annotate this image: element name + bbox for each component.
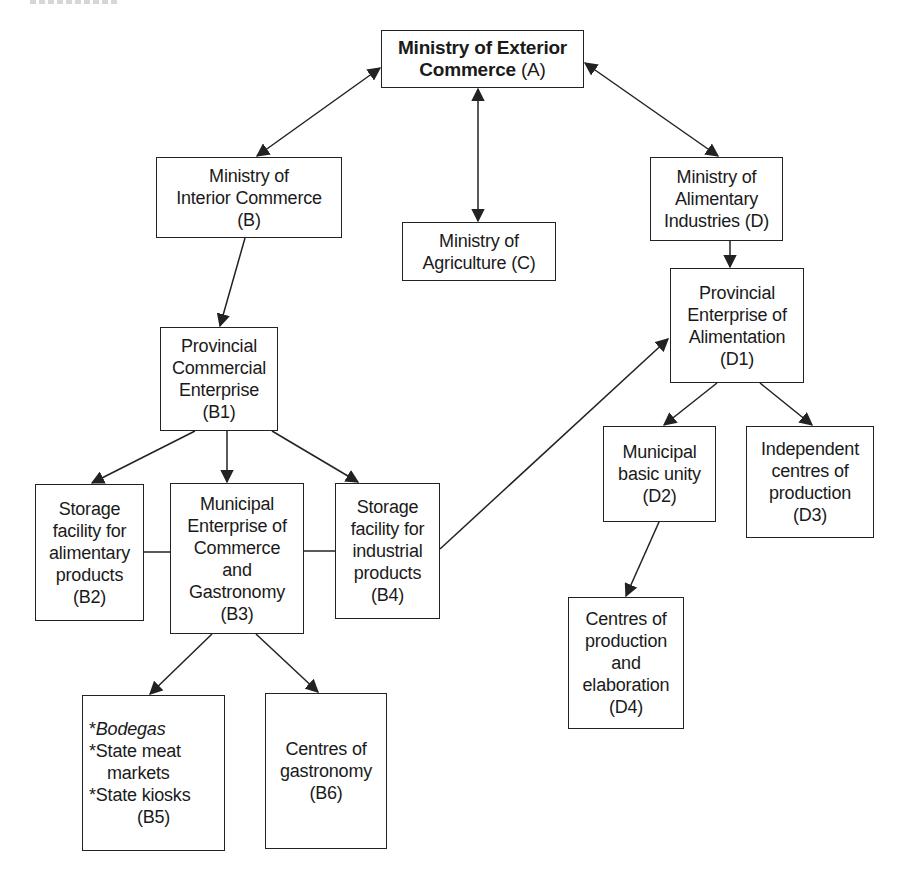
node-centres-production-elaboration: Centres of production and elaboration (D… <box>568 597 684 729</box>
edge-B1-B2 <box>92 431 195 483</box>
edge-B-B1 <box>220 238 245 326</box>
node-municipal-enterprise-commerce-gastronomy: Municipal Enterprise of Commerce and Gas… <box>170 483 304 634</box>
node-centres-gastronomy: Centres of gastronomy (B6) <box>265 693 387 849</box>
node-ministry-interior-commerce: Ministry of Interior Commerce (B) <box>156 157 342 238</box>
node-municipal-basic-unity: Municipal basic unity (D2) <box>603 426 716 522</box>
node-ministry-agriculture: Ministry of Agriculture (C) <box>402 222 556 281</box>
node-storage-industrial-products: Storage facility for industrial products… <box>335 483 440 619</box>
edge-D1-D3 <box>760 383 812 425</box>
edge-A-B <box>257 68 380 156</box>
org-diagram: Ministry of Exterior Commerce (A) Minist… <box>0 0 901 879</box>
edge-B1-B4 <box>272 431 358 482</box>
node-storage-alimentary-products: Storage facility for alimentary products… <box>35 484 144 621</box>
node-independent-centres-production: Independent centres of production (D3) <box>746 426 874 538</box>
edge-D2-D4 <box>626 522 659 596</box>
node-provincial-commercial-enterprise: Provincial Commercial Enterprise (B1) <box>160 327 278 431</box>
edge-B3-B6 <box>256 634 318 692</box>
node-ministry-exterior-commerce: Ministry of Exterior Commerce (A) <box>381 30 584 88</box>
edge-B3-B5 <box>150 634 212 694</box>
node-ministry-alimentary-industries: Ministry of Alimentary Industries (D) <box>650 157 783 241</box>
edge-D1-D2 <box>664 383 717 425</box>
node-bodegas-markets-kiosks: *Bodegas *State meat markets *State kios… <box>82 695 225 851</box>
node-provincial-enterprise-alimentation: Provincial Enterprise of Alimentation (D… <box>670 268 804 383</box>
edge-A-D <box>585 63 718 156</box>
